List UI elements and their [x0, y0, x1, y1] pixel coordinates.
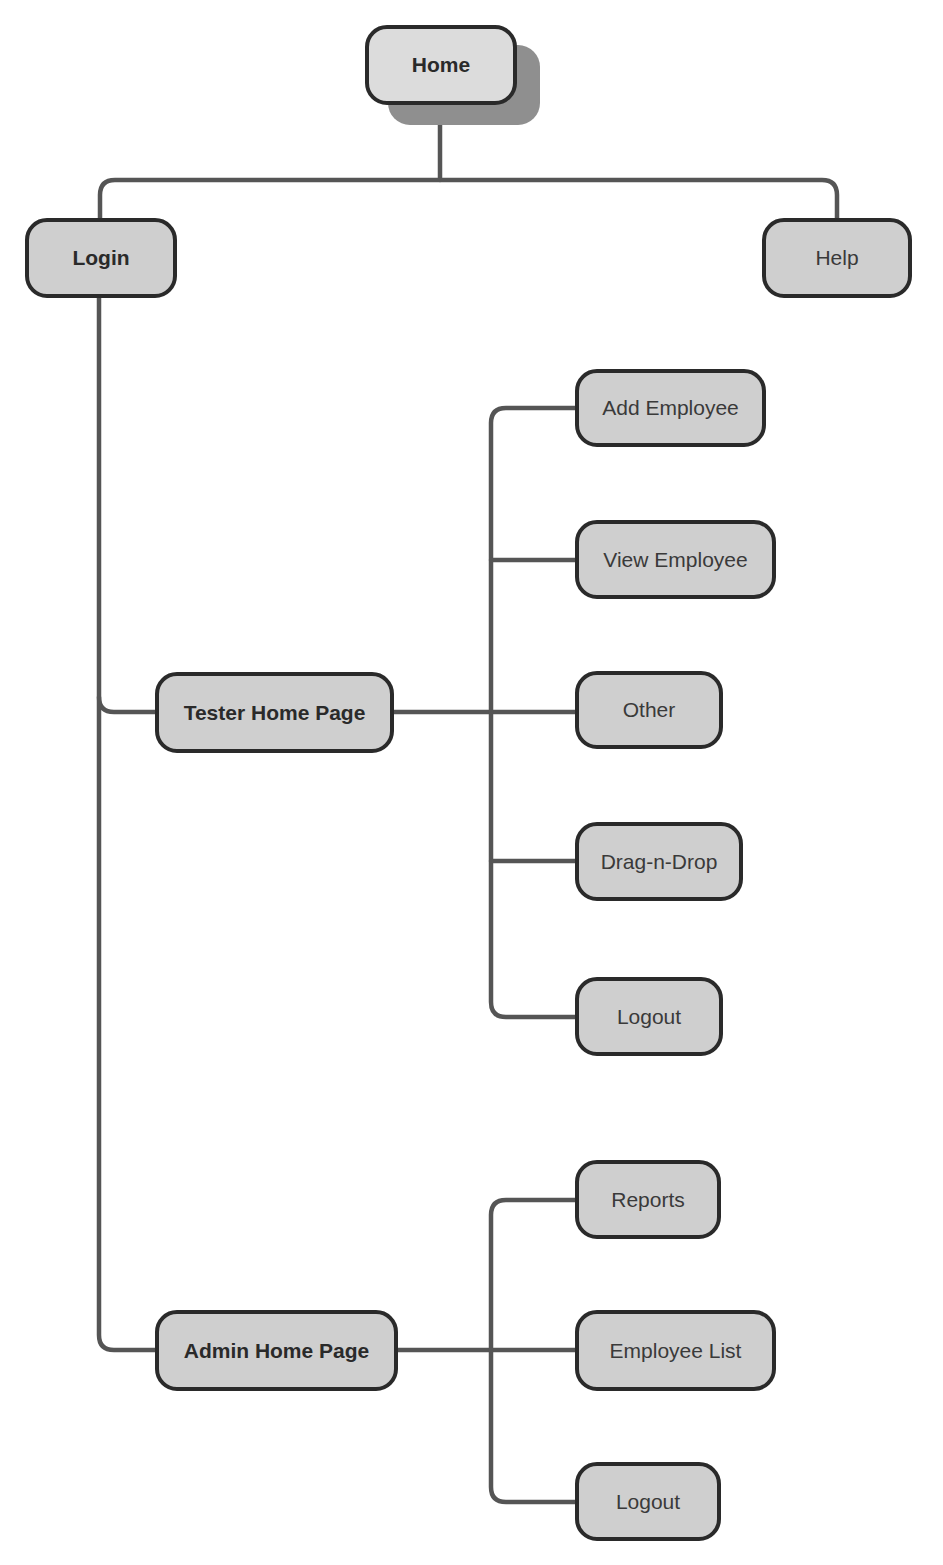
- node-label: Reports: [611, 1188, 685, 1212]
- node-label: Logout: [617, 1005, 681, 1029]
- node-view-employee[interactable]: View Employee: [575, 520, 776, 599]
- node-employee-list[interactable]: Employee List: [575, 1310, 776, 1391]
- node-label: View Employee: [603, 548, 747, 572]
- node-label: Home: [412, 53, 470, 77]
- node-label: Drag-n-Drop: [601, 850, 718, 874]
- node-label: Help: [815, 246, 858, 270]
- node-admin-logout[interactable]: Logout: [575, 1462, 721, 1541]
- node-tester-logout[interactable]: Logout: [575, 977, 723, 1056]
- node-reports[interactable]: Reports: [575, 1160, 721, 1239]
- node-label: Login: [72, 246, 129, 270]
- node-help[interactable]: Help: [762, 218, 912, 298]
- node-label: Other: [623, 698, 676, 722]
- node-home[interactable]: Home: [365, 25, 517, 105]
- node-label: Logout: [616, 1490, 680, 1514]
- node-label: Add Employee: [602, 396, 739, 420]
- node-tester-home-page[interactable]: Tester Home Page: [155, 672, 394, 753]
- node-other[interactable]: Other: [575, 671, 723, 749]
- node-login[interactable]: Login: [25, 218, 177, 298]
- node-admin-home-page[interactable]: Admin Home Page: [155, 1310, 398, 1391]
- node-label: Employee List: [610, 1339, 742, 1363]
- node-drag-n-drop[interactable]: Drag-n-Drop: [575, 822, 743, 901]
- node-label: Admin Home Page: [184, 1339, 370, 1363]
- node-add-employee[interactable]: Add Employee: [575, 369, 766, 447]
- node-label: Tester Home Page: [184, 701, 366, 725]
- site-map-diagram: Home Login Help Add Employee View Employ…: [0, 0, 943, 1565]
